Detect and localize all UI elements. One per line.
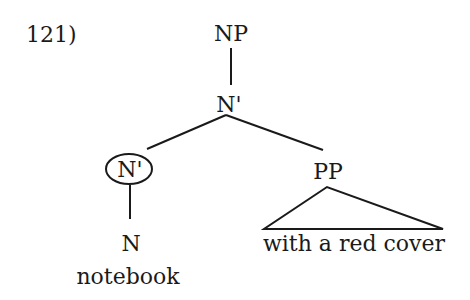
node-nbar-top: N' [216,92,241,117]
word-notebook: notebook [76,264,180,289]
example-number: 121) [26,22,77,47]
node-n: N [121,231,140,256]
edge-nbar-left [147,115,226,149]
triangle-pp [264,187,443,229]
node-nbar-circled: N' [117,157,142,182]
edge-nbar-right [226,115,323,150]
syntax-tree: 121) NP N' N' N notebook PP with a red c… [0,0,470,300]
node-pp: PP [313,159,343,184]
node-np: NP [214,21,248,46]
words-with-a-red-cover: with a red cover [263,231,446,256]
